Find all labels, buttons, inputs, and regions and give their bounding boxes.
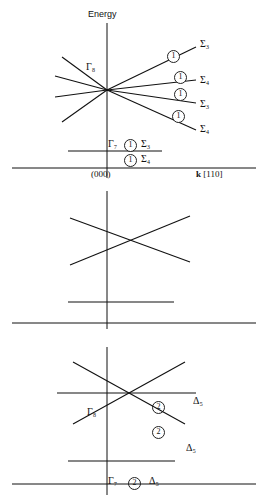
energy-axis-label: Energy [88, 10, 117, 19]
panel-3-graphics [0, 335, 264, 504]
k-axis-label: k [110] [196, 170, 222, 179]
panel-delta-100: Γ₈ 2 Δ₅ 2 Δ₅ Γ₇ 2 Δ₅ (000) k [100] [0, 185, 264, 335]
branch-label-sigma4-down: Σ₄ [200, 124, 209, 134]
degeneracy-badge: 1 [172, 110, 185, 123]
origin-label: (000) [91, 170, 111, 179]
panel-2-graphics [0, 185, 264, 335]
lower-branch-label-sigma4: Σ₄ [141, 154, 150, 164]
panel-sigma-110: Energy Γ₈ 1 Σ₃ 1 Σ₄ 1 Σ₃ 1 Σ₄ Γ₇ 1 Σ₃ 1 … [0, 0, 264, 185]
gamma7-label: Γ₇ [108, 139, 117, 149]
degeneracy-badge: 1 [167, 50, 180, 63]
k-direction-index: [110] [201, 169, 222, 179]
degeneracy-badge: 1 [124, 139, 137, 152]
branch-mirror-1 [62, 57, 107, 90]
branch-mirror-2 [55, 76, 107, 90]
branch-delta5-down [70, 218, 190, 262]
degeneracy-badge: 1 [174, 71, 187, 84]
panel-lambda-111: Γ₈ 1 Λ₄ 2 Λ₆ 1 Λ₅ Γ₇ 2 Λ₆ (000) k [111] [0, 335, 264, 504]
branch-label-sigma3-down: Σ₃ [200, 99, 209, 109]
degeneracy-badge: 1 [124, 154, 137, 167]
branch-label-sigma4-up: Σ₄ [200, 75, 209, 85]
gamma8-label: Γ₈ [86, 62, 95, 72]
branch-label-sigma3-up: Σ₃ [200, 39, 209, 49]
degeneracy-badge: 1 [174, 88, 187, 101]
lower-branch-label-sigma3: Σ₃ [141, 139, 150, 149]
